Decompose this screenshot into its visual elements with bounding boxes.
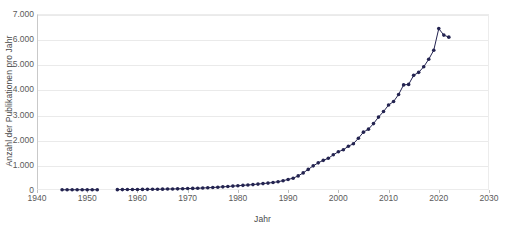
- data-point: [136, 188, 140, 192]
- data-point: [392, 100, 396, 104]
- x-tick-label: 2010: [369, 193, 409, 203]
- data-point: [417, 71, 421, 75]
- data-point: [332, 153, 336, 157]
- x-tick-label: 1980: [218, 193, 258, 203]
- data-point: [90, 188, 94, 192]
- data-point: [196, 186, 200, 190]
- data-point: [251, 183, 255, 187]
- data-point: [191, 187, 195, 191]
- data-point: [337, 150, 341, 154]
- data-point: [276, 180, 280, 184]
- data-point: [141, 188, 145, 192]
- data-point: [221, 185, 225, 189]
- data-point: [296, 174, 300, 178]
- x-tick-label: 2030: [469, 193, 508, 203]
- data-point: [226, 185, 230, 189]
- data-point: [442, 33, 446, 37]
- data-point: [156, 187, 160, 191]
- x-tick-mark: [238, 190, 239, 193]
- data-point: [161, 187, 165, 191]
- x-tick-mark: [37, 190, 38, 193]
- data-point: [206, 186, 210, 190]
- x-tick-label: 1990: [268, 193, 308, 203]
- data-point: [412, 74, 416, 78]
- data-point: [261, 182, 265, 186]
- data-point: [65, 188, 69, 192]
- data-point: [271, 181, 275, 185]
- x-tick-mark: [288, 190, 289, 193]
- data-point: [362, 130, 366, 134]
- data-point: [326, 157, 330, 161]
- data-point: [166, 187, 170, 191]
- data-point: [387, 103, 391, 107]
- data-point: [447, 35, 451, 39]
- data-point: [85, 188, 89, 192]
- data-point: [306, 168, 310, 172]
- data-point: [256, 182, 260, 186]
- x-tick-mark: [439, 190, 440, 193]
- data-point: [432, 48, 436, 52]
- data-point: [171, 187, 175, 191]
- data-point: [347, 144, 351, 148]
- data-point: [246, 183, 250, 187]
- data-point: [131, 188, 135, 192]
- data-point: [181, 187, 185, 191]
- data-point: [377, 115, 381, 119]
- data-point: [176, 187, 180, 191]
- x-tick-mark: [338, 190, 339, 193]
- data-point: [116, 188, 120, 192]
- x-tick-label: 1960: [117, 193, 157, 203]
- data-point: [427, 57, 431, 61]
- data-point: [241, 184, 245, 188]
- x-tick-label: 2020: [419, 193, 459, 203]
- x-tick-mark: [389, 190, 390, 193]
- data-point: [70, 188, 74, 192]
- data-point: [216, 185, 220, 189]
- data-point: [286, 178, 290, 182]
- x-tick-label: 1970: [168, 193, 208, 203]
- data-point: [352, 142, 356, 146]
- x-axis-title: Jahr: [36, 214, 489, 224]
- data-point: [95, 188, 99, 192]
- data-point: [80, 188, 84, 192]
- data-point: [75, 188, 79, 192]
- series-line: [117, 29, 448, 190]
- data-point: [382, 110, 386, 114]
- data-point: [367, 127, 371, 131]
- data-point: [121, 188, 125, 192]
- data-point: [126, 188, 130, 192]
- data-point: [291, 176, 295, 180]
- data-point: [231, 184, 235, 188]
- data-point: [321, 159, 325, 163]
- y-axis-title: Anzahl der Publikationen pro Jahr: [2, 6, 16, 196]
- data-point: [281, 179, 285, 183]
- publications-per-year-chart: Anzahl der Publikationen pro Jahr 01.000…: [0, 0, 508, 235]
- x-tick-label: 1940: [17, 193, 57, 203]
- x-tick-label: 2000: [318, 193, 358, 203]
- data-point: [402, 83, 406, 87]
- data-point: [372, 122, 376, 126]
- data-point: [266, 181, 270, 185]
- data-point: [397, 93, 401, 97]
- data-point: [146, 188, 150, 192]
- data-point: [422, 65, 426, 69]
- data-point: [201, 186, 205, 190]
- data-point: [311, 164, 315, 168]
- data-point: [60, 188, 64, 192]
- data-point: [342, 148, 346, 152]
- data-point: [407, 83, 411, 87]
- data-point: [211, 186, 215, 190]
- data-point: [301, 171, 305, 175]
- data-point: [151, 188, 155, 192]
- data-point: [186, 187, 190, 191]
- series-layer: [37, 14, 489, 190]
- x-tick-label: 1950: [67, 193, 107, 203]
- data-point: [437, 27, 441, 31]
- x-tick-mark: [188, 190, 189, 193]
- x-tick-mark: [489, 190, 490, 193]
- data-point: [357, 136, 361, 140]
- data-point: [236, 184, 240, 188]
- data-point: [316, 161, 320, 165]
